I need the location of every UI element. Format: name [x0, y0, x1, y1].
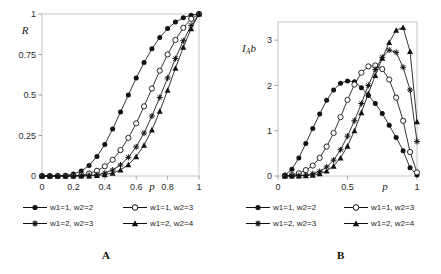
chart-a-canvas: 00.250.50.75100.20.40.60.81pR — [0, 0, 220, 200]
svg-text:2: 2 — [267, 81, 272, 91]
legend-item-1[interactable]: w1=1, w2=3 — [343, 202, 441, 213]
svg-text:0: 0 — [267, 171, 272, 181]
svg-text:0.4: 0.4 — [99, 182, 112, 192]
panel-b: 012300.51pIAb w1=1, w2=2 w1=1, w2=3 — [221, 0, 441, 274]
legend-label: w1=2, w2=4 — [371, 219, 414, 228]
svg-text:R: R — [21, 24, 29, 36]
legend-item-0[interactable]: w1=1, w2=2 — [22, 202, 122, 213]
legend-b: w1=1, w2=2 w1=1, w2=3 — [245, 202, 441, 229]
panel-a: 00.250.50.75100.20.40.60.81pR w1=1, w2=2… — [0, 0, 220, 274]
svg-text:0.6: 0.6 — [130, 182, 143, 192]
legend-label: w1=1, w2=2 — [50, 203, 93, 212]
legend-label: w1=2, w2=3 — [50, 219, 93, 228]
filled-circle-icon — [245, 202, 271, 213]
svg-text:0: 0 — [31, 171, 36, 181]
legend-item-2[interactable]: w1=2, w2=3 — [22, 218, 122, 229]
chart-b: 012300.51pIAb — [221, 0, 441, 200]
panel-letter-a: A — [102, 249, 110, 261]
panel-letter-b: B — [337, 249, 344, 261]
legend-a: w1=1, w2=2 w1=1, w2=3 — [22, 202, 220, 229]
svg-text:0: 0 — [39, 182, 44, 192]
legend-label: w1=1, w2=2 — [273, 203, 316, 212]
legend-item-3[interactable]: w1=2, w2=4 — [343, 218, 441, 229]
legend-label: w1=2, w2=4 — [150, 219, 193, 228]
legend-label: w1=2, w2=3 — [273, 219, 316, 228]
legend-item-3[interactable]: w1=2, w2=4 — [122, 218, 220, 229]
svg-text:1: 1 — [31, 9, 36, 19]
legend-row: w1=1, w2=2 w1=1, w2=3 — [245, 202, 441, 213]
legend-item-0[interactable]: w1=1, w2=2 — [245, 202, 343, 213]
filled-triangle-icon — [343, 218, 369, 229]
svg-text:1: 1 — [267, 126, 272, 136]
legend-row: w1=1, w2=2 w1=1, w2=3 — [22, 202, 220, 213]
star-icon — [245, 218, 271, 229]
legend-label: w1=1, w2=3 — [371, 203, 414, 212]
svg-text:1: 1 — [414, 182, 419, 192]
filled-triangle-icon — [122, 218, 148, 229]
legend-row: w1=2, w2=3 w1=2, w2=4 — [22, 218, 220, 229]
svg-text:1: 1 — [196, 182, 201, 192]
svg-text:0.5: 0.5 — [23, 90, 36, 100]
svg-text:0.2: 0.2 — [67, 182, 80, 192]
svg-text:0.25: 0.25 — [18, 131, 36, 141]
star-icon — [22, 218, 48, 229]
legend-item-1[interactable]: w1=1, w2=3 — [122, 202, 220, 213]
svg-text:0.8: 0.8 — [161, 182, 174, 192]
legend-item-2[interactable]: w1=2, w2=3 — [245, 218, 343, 229]
svg-text:0.5: 0.5 — [341, 182, 354, 192]
legend-row: w1=2, w2=3 w1=2, w2=4 — [245, 218, 441, 229]
svg-text:p: p — [148, 180, 155, 192]
svg-text:p: p — [381, 180, 388, 192]
open-circle-icon — [122, 202, 148, 213]
svg-text:3: 3 — [267, 35, 272, 45]
chart-b-canvas: 012300.51pIAb — [221, 0, 441, 200]
open-circle-icon — [343, 202, 369, 213]
svg-text:IAb: IAb — [241, 42, 256, 56]
svg-text:0: 0 — [275, 182, 280, 192]
chart-a: 00.250.50.75100.20.40.60.81pR — [0, 0, 220, 200]
svg-text:0.75: 0.75 — [18, 50, 36, 60]
filled-circle-icon — [22, 202, 48, 213]
legend-label: w1=1, w2=3 — [150, 203, 193, 212]
